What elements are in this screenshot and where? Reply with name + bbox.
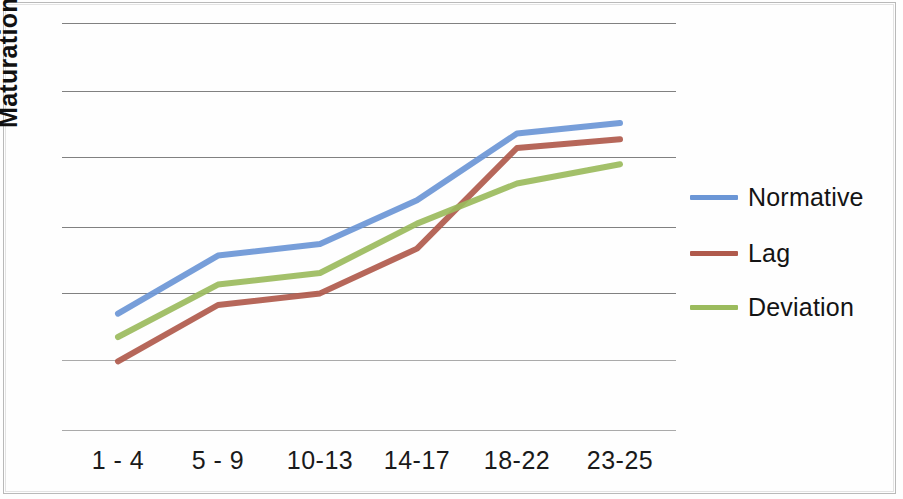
x-axis-tick-label: 18-22 [484, 446, 550, 475]
legend-color-swatch [690, 305, 738, 310]
y-axis-title: Maturation [0, 0, 23, 128]
legend-label: Deviation [748, 293, 854, 322]
x-axis-tick-label: 14-17 [384, 446, 450, 475]
legend-item: Normative [690, 182, 864, 212]
x-axis-tick-label: 23-25 [587, 446, 653, 475]
legend-item: Deviation [690, 292, 854, 322]
series-line-deviation [118, 164, 620, 337]
x-axis-tick-labels: 1 - 45 - 910-1314-1718-2223-25 [62, 446, 676, 490]
legend-label: Normative [748, 183, 864, 212]
line-chart-figure: Maturation 1 - 45 - 910-1314-1718-2223-2… [0, 0, 903, 499]
legend-item: Lag [690, 238, 790, 268]
legend-color-swatch [690, 251, 738, 256]
legend-color-swatch [690, 195, 738, 200]
legend-label: Lag [748, 239, 790, 268]
x-axis-tick-label: 5 - 9 [192, 446, 245, 475]
series-line-normative [118, 123, 620, 314]
x-axis-tick-label: 10-13 [287, 446, 353, 475]
x-axis-tick-label: 1 - 4 [92, 446, 145, 475]
